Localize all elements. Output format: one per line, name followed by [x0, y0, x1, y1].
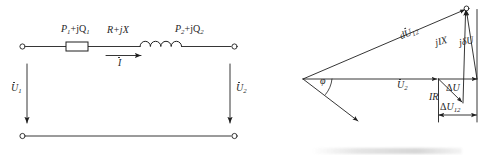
sending-power-label: P1+jQ1 — [61, 24, 90, 35]
terminal-bottom-right — [232, 133, 237, 138]
inductor-coil — [140, 41, 182, 46]
terminal-top-left — [20, 44, 25, 49]
terminal-bottom-left — [20, 133, 25, 138]
receiving-power-label: P2+jQ2 — [175, 24, 204, 35]
sending-voltage-label: U1 — [11, 83, 22, 94]
figure-root: P1+jQ1 R+jX I P2+jQ2 U1 U2 φ U2 dU12 jIX… — [0, 0, 480, 155]
impedance-label: R+jX — [107, 25, 129, 35]
receiving-voltage-label: U2 — [236, 83, 247, 94]
phase-angle-label: φ — [320, 76, 326, 86]
transverse-drop-label: ΔU12 — [440, 102, 460, 113]
terminal-top-right — [232, 44, 237, 49]
phasor-u2-label: U2 — [397, 80, 408, 91]
phasor-apex-node — [464, 6, 469, 11]
resistive-drop-label: IR — [429, 92, 438, 102]
resistor-body — [66, 42, 88, 51]
longitudinal-drop-label: ΔU — [446, 83, 460, 93]
cropped-caption-remnant — [312, 148, 462, 154]
reactive-drop-phasor — [463, 11, 466, 104]
current-label: I — [118, 58, 121, 68]
phi-angle-arc — [326, 79, 333, 95]
